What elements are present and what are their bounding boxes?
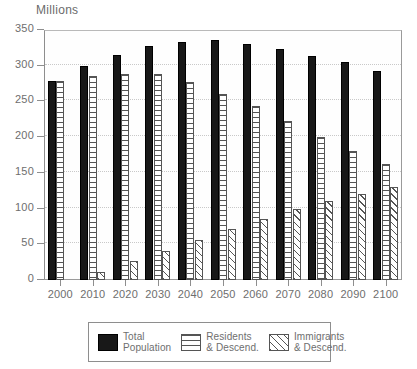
bar-2030-total-population (145, 46, 153, 280)
bar-group-2000 (48, 30, 73, 280)
bar-2040-total-population (178, 42, 186, 280)
solid-black-swatch (98, 334, 118, 351)
x-tick-label: 2090 (341, 288, 366, 300)
y-tick-mark (37, 172, 44, 173)
legend-item-0: TotalPopulation (98, 331, 171, 353)
bar-2020-total-population (113, 55, 121, 280)
x-tick-2040: 2040 (174, 280, 207, 310)
y-tick-mark (37, 243, 44, 244)
y-tick-mark (37, 65, 44, 66)
x-tick-label: 2000 (48, 288, 73, 300)
x-tick-label: 2040 (178, 288, 203, 300)
bar-2050-total-population (211, 40, 219, 280)
x-tick-2050: 2050 (207, 280, 240, 310)
bar-group-2060 (243, 30, 268, 280)
y-tick-label: 350 (15, 22, 34, 34)
x-tick-2080: 2080 (304, 280, 337, 310)
bar-2080-immigrants-descend (325, 201, 333, 280)
x-tick-mark (386, 280, 387, 286)
bar-group-2090 (341, 30, 366, 280)
legend-label-line2: Population (123, 342, 171, 353)
bar-2010-immigrants-descend (97, 272, 105, 280)
bar-2080-total-population (308, 56, 316, 280)
x-tick-mark (158, 280, 159, 286)
diagonal-lines-swatch (269, 334, 289, 351)
bar-2070-total-population (276, 49, 284, 280)
y-axis: 050100150200250300350 (0, 30, 44, 280)
legend-item-label: Immigrants& Descend. (294, 331, 347, 353)
y-tick-mark (37, 136, 44, 137)
bar-group-2050 (211, 30, 236, 280)
x-tick-2090: 2090 (337, 280, 370, 310)
y-tick-label: 150 (15, 165, 34, 177)
x-tick-2010: 2010 (77, 280, 110, 310)
y-tick-label: 0 (28, 272, 34, 284)
bar-2010-residents-descend (89, 76, 97, 280)
y-tick-mark (37, 208, 44, 209)
x-tick-mark (60, 280, 61, 286)
legend-item-label: Residents& Descend. (206, 331, 259, 353)
y-tick-label: 50 (21, 236, 34, 248)
bar-2030-residents-descend (154, 74, 162, 280)
x-tick-mark (256, 280, 257, 286)
chart-legend: TotalPopulationResidents& Descend.Immigr… (88, 322, 331, 362)
bar-2020-residents-descend (121, 74, 129, 280)
bar-2050-residents-descend (219, 94, 227, 280)
bar-group-2080 (308, 30, 333, 280)
bar-2090-total-population (341, 62, 349, 280)
y-tick-label: 200 (15, 129, 34, 141)
bar-group-2030 (145, 30, 170, 280)
bar-2050-immigrants-descend (228, 229, 236, 280)
x-tick-label: 2050 (210, 288, 235, 300)
bar-2010-total-population (80, 66, 88, 280)
x-tick-label: 2100 (373, 288, 398, 300)
y-tick-mark (37, 100, 44, 101)
x-tick-label: 2030 (145, 288, 170, 300)
y-tick-label: 100 (15, 201, 34, 213)
bar-2080-residents-descend (317, 137, 325, 280)
x-tick-label: 2070 (275, 288, 300, 300)
x-tick-label: 2060 (243, 288, 268, 300)
population-projection-chart: Millions 050100150200250300350 200020102… (0, 0, 417, 369)
legend-label-line1: Immigrants (294, 331, 344, 342)
x-tick-mark (321, 280, 322, 286)
y-tick-mark (37, 29, 44, 30)
bar-2070-immigrants-descend (293, 209, 301, 280)
bar-2100-residents-descend (382, 164, 390, 280)
bar-2040-residents-descend (186, 82, 194, 280)
x-tick-mark (288, 280, 289, 286)
bar-2060-residents-descend (252, 106, 260, 280)
x-tick-2020: 2020 (109, 280, 142, 310)
bar-2090-immigrants-descend (358, 194, 366, 280)
bar-group-2070 (276, 30, 301, 280)
x-tick-label: 2020 (113, 288, 138, 300)
x-tick-mark (190, 280, 191, 286)
legend-label-line2: & Descend. (206, 342, 259, 353)
x-tick-2100: 2100 (369, 280, 402, 310)
x-axis: 2000201020202030204020502060207020802090… (44, 280, 402, 310)
legend-item-1: Residents& Descend. (181, 331, 259, 353)
bar-group-2100 (373, 30, 398, 280)
y-tick-label: 250 (15, 93, 34, 105)
bar-2100-immigrants-descend (390, 187, 398, 280)
bars-layer (44, 30, 402, 280)
bar-group-2010 (80, 30, 105, 280)
legend-label-line2: & Descend. (294, 342, 347, 353)
bar-2100-total-population (373, 71, 381, 280)
legend-label-line1: Residents (206, 331, 251, 342)
bar-2070-residents-descend (284, 121, 292, 280)
bar-2020-immigrants-descend (130, 261, 138, 280)
x-tick-2060: 2060 (239, 280, 272, 310)
x-tick-mark (125, 280, 126, 286)
x-tick-mark (93, 280, 94, 286)
x-tick-2000: 2000 (44, 280, 77, 310)
bar-2000-total-population (48, 81, 56, 280)
legend-item-label: TotalPopulation (123, 331, 171, 353)
legend-item-2: Immigrants& Descend. (269, 331, 347, 353)
y-tick-mark (37, 279, 44, 280)
bar-2060-immigrants-descend (260, 219, 268, 280)
horizontal-lines-swatch (181, 334, 201, 351)
y-tick-label: 300 (15, 58, 34, 70)
bar-2040-immigrants-descend (195, 240, 203, 280)
x-tick-2030: 2030 (142, 280, 175, 310)
